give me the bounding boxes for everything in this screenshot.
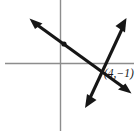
graph-canvas: (4,−1) bbox=[0, 0, 139, 134]
coordinate-graph-figure: (4,−1) bbox=[0, 0, 139, 134]
intersection-point-label: (4,−1) bbox=[104, 67, 134, 80]
line-point-marker bbox=[61, 41, 66, 46]
